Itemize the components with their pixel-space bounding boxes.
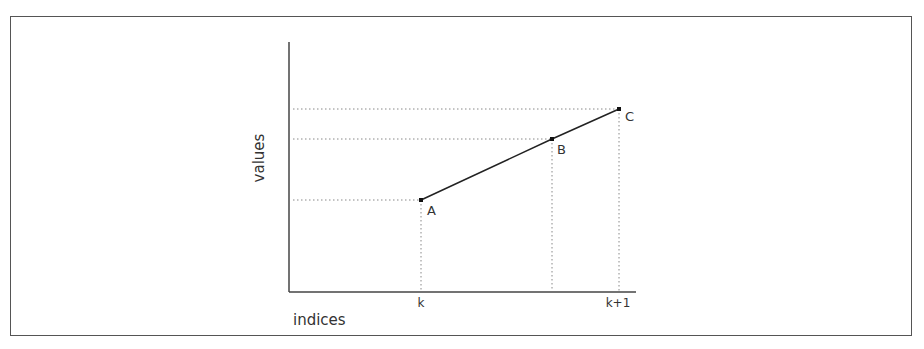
tick-k: k <box>418 296 425 310</box>
point-c-label: C <box>625 109 634 124</box>
guide-lines <box>293 109 619 291</box>
point-a-label: A <box>427 203 436 218</box>
tick-k-plus-1: k+1 <box>606 296 631 310</box>
point-c <box>617 107 621 111</box>
interpolation-line <box>421 109 619 200</box>
point-a <box>419 198 423 202</box>
y-axis-label: values <box>250 133 268 182</box>
x-axis-label: indices <box>293 311 346 329</box>
interpolation-diagram: A B C k k+1 indices values <box>0 0 924 349</box>
point-b <box>550 137 554 141</box>
point-b-label: B <box>557 142 566 157</box>
